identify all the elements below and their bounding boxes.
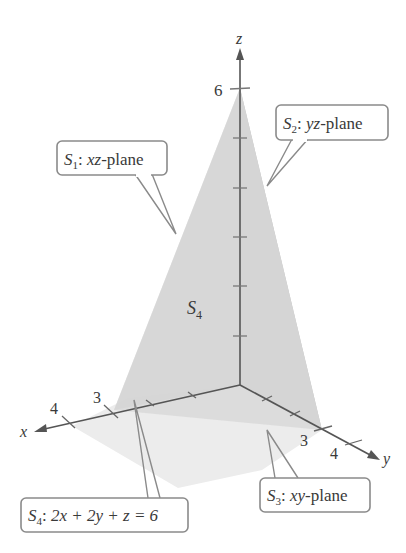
x-tick-3: 3 <box>93 389 101 406</box>
xz-plane-face <box>114 88 240 410</box>
svg-text:S4: 2x + 2y + z = 6: S4: 2x + 2y + z = 6 <box>28 506 159 527</box>
z-tick-6: 6 <box>214 81 223 100</box>
x-axis-arrow-icon <box>34 424 47 432</box>
callout-s1: S1: xz-plane <box>57 141 176 234</box>
y-tick-3: 3 <box>300 432 308 449</box>
x-tick-4: 4 <box>50 400 58 417</box>
tetrahedron-diagram: z 6 x 3 4 y 3 4 S4 S1: xz-plane S2: yz-p… <box>0 0 406 553</box>
callout-s2: S2: yz-plane <box>267 105 388 186</box>
y-axis-arrow-icon <box>367 450 380 460</box>
z-axis-arrow-icon <box>236 48 244 60</box>
y-tick-4: 4 <box>330 445 338 462</box>
y-axis-label: y <box>381 450 391 468</box>
x-axis-label: x <box>19 423 27 440</box>
z-axis-label: z <box>235 30 243 47</box>
